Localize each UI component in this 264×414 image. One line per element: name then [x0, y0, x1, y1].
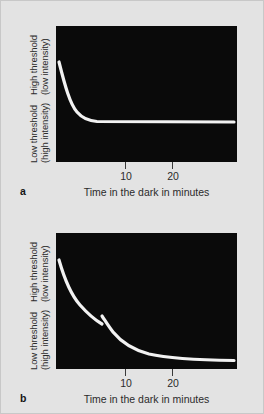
panel-b-xlabel: Time in the dark in minutes — [56, 393, 237, 405]
dark-adaptation-figure: High threshold (low intensity) Low thres… — [0, 0, 264, 414]
panel-b-plot-area — [56, 233, 237, 369]
panel-b-tick-10 — [125, 369, 126, 376]
panel-b: High threshold (low intensity) Low thres… — [0, 207, 264, 414]
panel-b-tick-20 — [172, 369, 173, 376]
panel-b-ylabel-high-line1: High threshold — [29, 242, 40, 302]
panel-b-ylabel-high: High threshold (low intensity) — [29, 242, 50, 302]
panel-a-ylabel-low-line1: Low threshold — [29, 103, 40, 163]
panel-a-ylabel-high-line1: High threshold — [29, 35, 40, 95]
panel-b-letter: b — [20, 392, 26, 404]
panel-a-ticklabel-10: 10 — [120, 170, 132, 182]
panel-b-ylabel-low-line1: Low threshold — [29, 310, 40, 370]
panel-b-cone-branch-path — [59, 260, 102, 324]
panel-b-ylabel-low-line2: (high intensity) — [40, 310, 51, 370]
panel-a-xlabel: Time in the dark in minutes — [56, 186, 237, 198]
panel-a-tick-20 — [172, 162, 173, 169]
panel-b-curve — [56, 233, 237, 369]
panel-a-curve — [56, 26, 237, 162]
panel-a-ylabel-low-line2: (high intensity) — [40, 103, 51, 163]
panel-b-rod-branch-path — [102, 316, 234, 361]
panel-a-ylabel-low: Low threshold (high intensity) — [29, 103, 50, 163]
panel-a-ticklabel-20: 20 — [167, 170, 179, 182]
panel-b-ylabel-low: Low threshold (high intensity) — [29, 310, 50, 370]
panel-a-plot-area — [56, 26, 237, 162]
panel-a-ylabel-high-line2: (low intensity) — [40, 35, 51, 95]
panel-b-ylabel-high-line2: (low intensity) — [40, 242, 51, 302]
panel-a-letter: a — [20, 185, 26, 197]
panel-a-rod-curve-path — [59, 62, 234, 122]
panel-a-tick-10 — [125, 162, 126, 169]
panel-b-ticklabel-20: 20 — [167, 377, 179, 389]
panel-a-ylabel-high: High threshold (low intensity) — [29, 35, 50, 95]
panel-b-ticklabel-10: 10 — [120, 377, 132, 389]
panel-a: High threshold (low intensity) Low thres… — [0, 0, 264, 207]
